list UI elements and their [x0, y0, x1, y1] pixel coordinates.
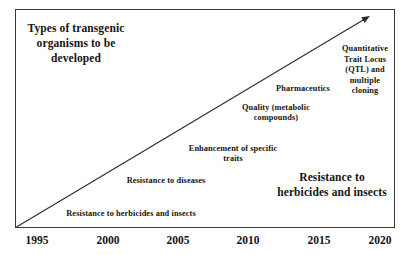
label-resistance-to-diseases: Resistance to diseases — [122, 176, 210, 186]
label-enhancement-specific-traits: Enhancement of specific traits — [180, 144, 286, 165]
axis-tick-1995: 1995 — [15, 234, 59, 246]
axis-tick-2010: 2010 — [226, 234, 270, 246]
axis-tick-2000: 2000 — [86, 234, 130, 246]
year-axis: 1995 2000 2005 2010 2015 2020 — [15, 234, 395, 252]
diagram-title: Types of transgenic organisms to be deve… — [12, 21, 140, 67]
label-resistance-herbicides-insects-large: Resistance to herbicides and insects — [268, 170, 396, 200]
label-resistance-herbicides-insects-small: Resistance to herbicides and insects — [56, 209, 206, 219]
axis-tick-2020: 2020 — [358, 234, 402, 246]
label-quality-metabolic-compounds: Quality (metabolic compounds) — [228, 103, 324, 124]
axis-tick-2015: 2015 — [297, 234, 341, 246]
axis-tick-2005: 2005 — [156, 234, 200, 246]
transgenic-timeline-diagram: Types of transgenic organisms to be deve… — [0, 0, 409, 255]
label-pharmaceutics: Pharmaceutics — [262, 84, 344, 94]
